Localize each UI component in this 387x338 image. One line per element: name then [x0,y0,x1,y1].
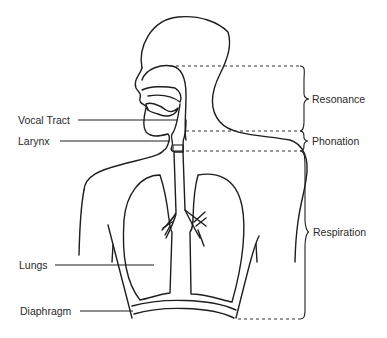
lung-left [123,175,172,300]
tongue [146,103,178,116]
brace-resonance [300,66,309,131]
speech-anatomy-diagram: Vocal Tract Larynx Lungs Diaphragm Reson… [0,0,387,338]
brace-respiration [300,151,309,319]
label-respiration: Respiration [313,226,366,238]
anatomy-illustration [0,0,387,338]
shoulder-left [79,190,84,255]
ribcage-left-inner [112,245,113,262]
ribcage-right-inner [256,244,257,262]
label-diaphragm: Diaphragm [20,305,71,317]
larynx-cartilage [173,145,183,151]
label-lungs: Lungs [19,259,48,271]
palate [142,87,181,102]
label-larynx: Larynx [18,135,50,147]
label-phonation: Phonation [312,135,359,147]
diaphragm-lower [134,308,234,318]
lung-right [190,174,244,302]
label-resonance: Resonance [312,93,365,105]
label-vocal-tract: Vocal Tract [18,114,70,126]
bronchus-right [185,210,206,246]
ribcage-left [108,225,132,318]
